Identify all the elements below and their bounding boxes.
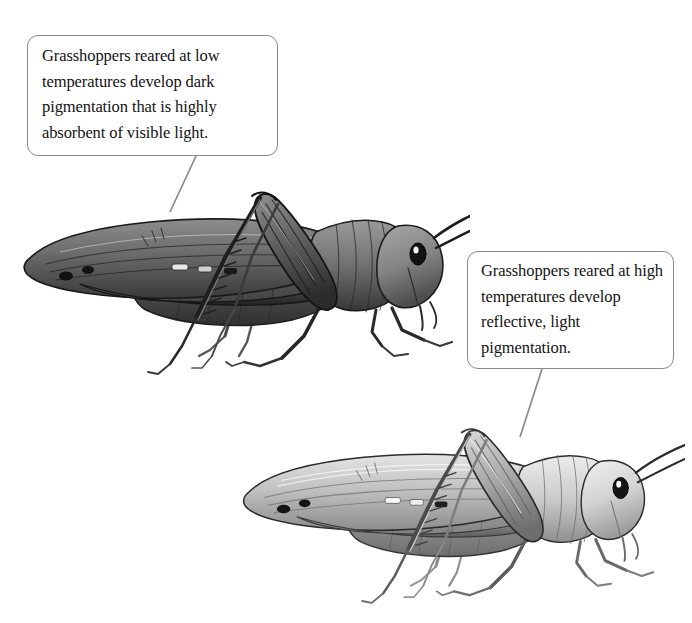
callout-low-temperature-text: Grasshoppers reared at low temperatures … (42, 43, 265, 145)
grasshopper-pigmentation-figure: Grasshoppers reared at low temperatures … (0, 0, 692, 623)
callout-low-temperature: Grasshoppers reared at low temperatures … (27, 35, 278, 156)
hot-callout-leader-line (520, 369, 542, 437)
callout-high-temperature-text: Grasshoppers reared at high temperatures… (481, 258, 663, 360)
callout-high-temperature: Grasshoppers reared at high temperatures… (467, 251, 674, 369)
